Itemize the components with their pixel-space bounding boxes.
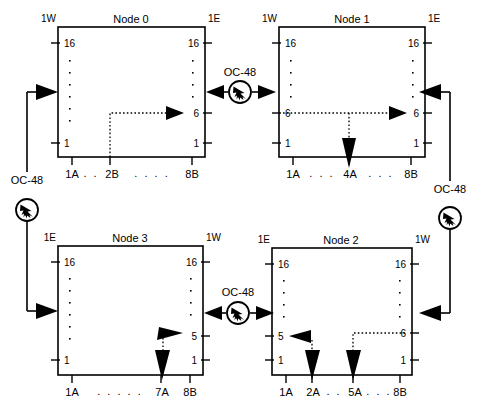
node-2-slot-dots-mid: . . bbox=[326, 385, 341, 397]
node-3-slot-label-1a: 1A bbox=[65, 386, 79, 398]
network-diagram: Node 0 1W 1E 16 1 16 1 6 bbox=[0, 0, 477, 410]
node-1-right-port-bottom: 1 bbox=[413, 138, 419, 149]
node-0-slot-label-8b: 8B bbox=[185, 168, 198, 180]
node-3-group: Node 3 1E 1W 16 1 16 5 1 bbox=[44, 232, 222, 398]
node-0-group: Node 0 1W 1E 16 1 16 1 6 bbox=[41, 13, 221, 180]
node-1-slot-label-1a: 1A bbox=[286, 168, 300, 180]
link-right-arrow-into-node2 bbox=[419, 305, 441, 321]
node-3-right-port-ellipsis bbox=[190, 278, 192, 316]
node-1-slot-dots-left: . . . bbox=[309, 167, 334, 179]
node-0-box bbox=[58, 27, 205, 157]
node-0-title: Node 0 bbox=[113, 13, 148, 25]
node-3-path-upper-arrowhead bbox=[157, 327, 183, 340]
node-3-left-side-label: 1E bbox=[44, 232, 57, 243]
node-0-path-arrowhead bbox=[166, 106, 184, 120]
node-3-box bbox=[58, 246, 203, 375]
node-2-slot-label-5a: 5A bbox=[348, 386, 362, 398]
node-2-right-port-bottom: 1 bbox=[400, 355, 406, 366]
node-2-title: Node 2 bbox=[323, 234, 358, 246]
node-3-left-port-top: 16 bbox=[64, 257, 76, 268]
node-0-left-port-ellipsis bbox=[69, 60, 71, 122]
node-1-path-down-arrowhead bbox=[342, 138, 356, 168]
link-bottom-label: OC-48 bbox=[222, 286, 254, 298]
node-2-right-port-top: 16 bbox=[395, 259, 407, 270]
node-2-left-port-top: 16 bbox=[278, 259, 290, 270]
link-right-group[interactable]: OC-48 bbox=[419, 84, 466, 321]
link-bottom-group[interactable]: OC-48 bbox=[204, 286, 274, 324]
node-2-slot-label-1a: 1A bbox=[279, 386, 293, 398]
node-2-left-port-mid: 5 bbox=[278, 331, 284, 342]
node-3-slot-label-8b: 8B bbox=[183, 386, 196, 398]
oc48-amplifier-icon[interactable] bbox=[229, 81, 251, 103]
link-bottom-arrow-left bbox=[204, 306, 222, 320]
node-3-title: Node 3 bbox=[112, 232, 147, 244]
node-0-path-2b-to-port6 bbox=[110, 113, 168, 157]
oc48-amplifier-icon[interactable] bbox=[227, 302, 249, 324]
node-2-slot-label-8b: 8B bbox=[393, 386, 406, 398]
link-top-arrow-left bbox=[206, 85, 224, 99]
node-0-slot-label-2b: 2B bbox=[105, 168, 118, 180]
node-2-path-port6-to-5a bbox=[353, 333, 405, 352]
node-2-left-port-bottom: 1 bbox=[278, 355, 284, 366]
node-2-left-port-ellipsis bbox=[283, 280, 285, 318]
node-1-left-port-top: 16 bbox=[285, 38, 297, 49]
node-2-slot-dots-right: . . . bbox=[366, 385, 391, 397]
node-0-right-port-top: 16 bbox=[188, 38, 200, 49]
node-0-slot-label-1a: 1A bbox=[65, 168, 79, 180]
node-1-slot-dots-right: . . . bbox=[368, 167, 393, 179]
oc48-amplifier-icon[interactable] bbox=[16, 199, 38, 221]
node-2-path-left-arrowhead bbox=[289, 330, 311, 343]
diagram-canvas: Node 0 1W 1E 16 1 16 1 6 bbox=[0, 0, 477, 410]
node-0-left-port-top: 16 bbox=[64, 38, 76, 49]
node-2-right-side-label: 1W bbox=[415, 234, 431, 245]
node-1-slot-label-4a: 4A bbox=[343, 168, 357, 180]
node-1-box bbox=[279, 27, 425, 157]
link-top-group[interactable]: OC-48 bbox=[206, 66, 276, 103]
node-0-slot-dots-right: . . . . bbox=[134, 167, 169, 179]
node-3-right-side-label: 1W bbox=[206, 232, 222, 243]
node-1-right-port-ellipsis bbox=[412, 60, 414, 98]
node-2-left-side-label: 1E bbox=[258, 234, 271, 245]
node-0-slot-dots-left: . . bbox=[83, 167, 98, 179]
node-0-left-side-label: 1W bbox=[41, 13, 57, 24]
node-0-right-port-mid: 6 bbox=[193, 108, 199, 119]
node-2-box bbox=[272, 248, 412, 375]
node-0-right-side-label: 1E bbox=[208, 13, 221, 24]
node-2-right-port-ellipsis bbox=[399, 280, 401, 318]
node-2-slot-label-2a: 2A bbox=[306, 386, 320, 398]
node-1-title: Node 1 bbox=[334, 13, 369, 25]
node-3-left-port-bottom: 1 bbox=[64, 355, 70, 366]
node-1-path-right-arrowhead bbox=[389, 106, 407, 120]
link-left-group[interactable]: OC-48 bbox=[11, 84, 58, 319]
node-3-left-port-ellipsis bbox=[69, 278, 71, 340]
oc48-amplifier-icon[interactable] bbox=[439, 207, 461, 229]
link-left-arrow-into-node3 bbox=[36, 303, 58, 319]
link-left-arrow-into-node0 bbox=[36, 84, 58, 100]
node-1-left-port-ellipsis bbox=[290, 60, 292, 98]
link-left-label: OC-48 bbox=[11, 174, 43, 186]
link-right-label: OC-48 bbox=[434, 183, 466, 195]
link-right-arrow-into-node1 bbox=[419, 84, 441, 100]
link-top-label: OC-48 bbox=[224, 66, 256, 78]
node-1-right-side-label: 1E bbox=[428, 13, 441, 24]
node-2-group: Node 2 1E 1W 16 5 1 16 6 1 bbox=[258, 234, 431, 398]
node-1-group: Node 1 1W 1E 16 6 1 16 6 1 bbox=[262, 13, 441, 180]
node-0-left-port-bottom: 1 bbox=[64, 138, 70, 149]
node-3-slot-dots-mid: . . . . . bbox=[97, 385, 143, 397]
node-1-right-port-top: 16 bbox=[408, 38, 420, 49]
node-0-right-port-bottom: 1 bbox=[193, 138, 199, 149]
node-3-slot-label-7a: 7A bbox=[155, 386, 169, 398]
node-1-right-port-mid: 6 bbox=[413, 108, 419, 119]
node-1-left-side-label: 1W bbox=[262, 13, 278, 24]
node-3-right-port-mid: 5 bbox=[191, 331, 197, 342]
node-3-right-port-top: 16 bbox=[186, 257, 198, 268]
node-0-right-port-ellipsis bbox=[192, 60, 194, 98]
node-1-slot-label-8b: 8B bbox=[404, 168, 417, 180]
link-top-arrow-right bbox=[258, 85, 276, 99]
node-3-right-port-bottom: 1 bbox=[191, 355, 197, 366]
node-1-left-port-bottom: 1 bbox=[285, 138, 291, 149]
